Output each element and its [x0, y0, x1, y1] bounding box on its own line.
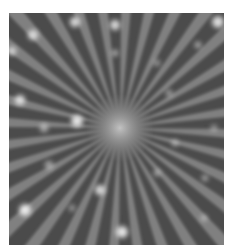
bokeh-sparkle — [170, 138, 180, 148]
bokeh-sparkle — [193, 40, 203, 50]
bokeh-sparkle — [152, 168, 162, 178]
bokeh-sparkle — [199, 213, 209, 223]
bokeh-sparkle — [110, 48, 120, 58]
bokeh-sparkle — [152, 58, 162, 68]
bokeh-sparkle — [38, 122, 50, 134]
bokeh-sparkle — [200, 173, 210, 183]
bokeh-sparkle — [93, 183, 107, 197]
bokeh-sparkle — [13, 93, 27, 107]
bokeh-sparkle — [108, 18, 122, 32]
bokeh-sparkle — [69, 113, 85, 129]
center-glow — [86, 94, 154, 162]
bokeh-sparkle — [114, 224, 130, 240]
bokeh-sparkle — [164, 88, 174, 98]
starburst-image — [9, 13, 224, 245]
bokeh-sparkle — [68, 15, 82, 29]
bokeh-sparkle — [43, 159, 55, 171]
starburst-canvas — [9, 13, 224, 245]
bokeh-sparkle — [26, 28, 40, 42]
bokeh-sparkle — [17, 202, 33, 218]
bokeh-sparkle — [67, 203, 77, 213]
bokeh-sparkle — [209, 123, 219, 133]
